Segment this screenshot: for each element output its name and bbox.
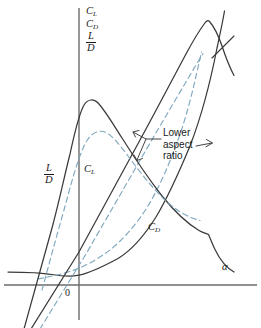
aerodynamic-coefficients-figure: CL CD L D L D CL CD α 0 Lower aspect rat… — [0, 0, 261, 328]
y-axis-label-cd: CD — [86, 19, 98, 31]
origin-label: 0 — [65, 288, 70, 298]
curve-cl-solid — [31, 21, 234, 328]
cl-curve-break-tick — [212, 36, 234, 58]
curve-label-cd: CD — [148, 222, 160, 234]
lower-aspect-ratio-leader-right — [196, 140, 213, 147]
y-axis-label-group: CL CD L D — [86, 6, 98, 55]
figure-canvas — [0, 0, 261, 328]
curve-ld-solid — [24, 100, 234, 328]
curve-label-ld: L D — [44, 163, 54, 185]
lower-aspect-ratio-line-1: Lower — [163, 127, 192, 139]
lower-aspect-ratio-annotation: Lower aspect ratio — [163, 127, 192, 162]
x-axis-label-alpha: α — [222, 262, 228, 273]
curve-cd-dashed — [38, 52, 202, 279]
y-axis-label-ld: L D — [86, 31, 98, 53]
lower-aspect-ratio-line-2: aspect — [163, 139, 192, 151]
lower-aspect-ratio-line-3: ratio — [163, 150, 192, 162]
curve-label-cl: CL — [84, 164, 95, 176]
y-axis-label-cl: CL — [86, 6, 98, 18]
